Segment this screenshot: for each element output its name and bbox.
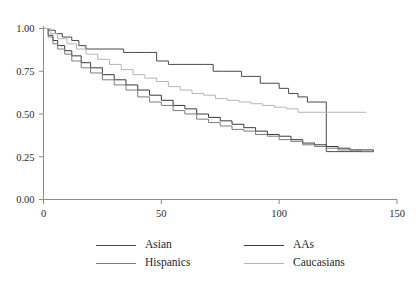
legend-swatch-line (244, 263, 284, 264)
chart-page: 0.000.250.500.751.00 050100150 Asian AAs… (0, 0, 416, 282)
y-tick-label: 1.00 (16, 23, 34, 34)
x-tick-label: 50 (156, 208, 167, 219)
y-tick-label: 0.50 (16, 109, 34, 120)
legend-item-asian: Asian (96, 239, 244, 251)
legend-swatch-line (96, 245, 136, 246)
series-lines (44, 29, 374, 152)
series-line-caucasians (44, 29, 367, 113)
legend-item-caucasians: Caucasians (244, 257, 392, 269)
series-line-hispanics (44, 29, 374, 152)
x-axis: 050100150 (41, 200, 405, 219)
y-tick-label: 0.00 (16, 194, 34, 205)
survival-curve-plot: 0.000.250.500.751.00 050100150 (0, 8, 416, 233)
legend-label: Hispanics (145, 257, 190, 269)
y-axis: 0.000.250.500.751.00 (16, 23, 43, 205)
x-tick-label: 100 (271, 208, 287, 219)
legend-swatch-line (244, 245, 284, 246)
series-line-asian (44, 29, 374, 152)
legend-swatch-line (96, 263, 136, 264)
x-tick-label: 150 (389, 208, 405, 219)
legend-row: Asian AAs (96, 236, 396, 254)
series-line-aas (44, 29, 374, 152)
y-tick-label: 0.25 (16, 152, 34, 163)
legend-item-aas: AAs (244, 239, 392, 251)
legend-row: Hispanics Caucasians (96, 254, 396, 272)
legend-label: AAs (293, 239, 314, 251)
y-tick-label: 0.75 (16, 66, 34, 77)
legend-label: Asian (145, 239, 172, 251)
legend-label: Caucasians (293, 257, 345, 269)
x-tick-label: 0 (41, 208, 46, 219)
legend-item-hispanics: Hispanics (96, 257, 244, 269)
chart-legend: Asian AAs Hispanics Caucasians (96, 236, 396, 272)
